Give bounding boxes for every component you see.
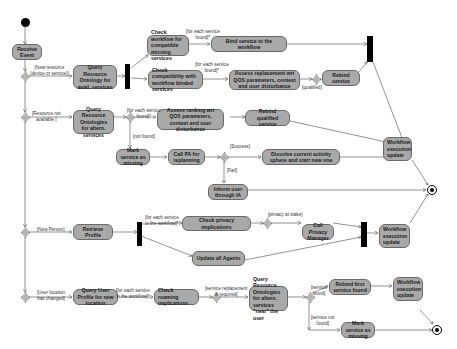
- action-assess-ranking[interactable]: Assess ranking wrt QOS parameters, conte…: [157, 109, 224, 130]
- action-dissolve-sphere[interactable]: Dissolve current activity sphere and sta…: [262, 149, 340, 165]
- guard-for-each-found-3: [for each service found]*: [127, 108, 161, 119]
- action-call-privacy-manager[interactable]: Call Privacy Manager: [302, 224, 334, 240]
- action-check-roaming[interactable]: Check roaming implications: [154, 289, 199, 305]
- guard-fail: [Fail]: [227, 168, 237, 174]
- guard-qualified: [qualified]: [302, 85, 322, 91]
- action-inform-user[interactable]: Inform user through IA: [208, 184, 248, 200]
- action-check-privacy[interactable]: Check privacy implications: [182, 216, 251, 231]
- guard-for-each-found-1: [for each service found]*: [186, 29, 220, 40]
- action-bind-service[interactable]: Bind service to the workflow: [211, 36, 287, 52]
- action-query-resource-altern[interactable]: Query Resource Ontologies for altern. se…: [73, 110, 114, 134]
- guard-for-each-workflow-2: [for each service in the workflow]*: [116, 288, 150, 299]
- guard-replacement-required: [service replacement is required]: [205, 286, 247, 297]
- action-mark-missing-2[interactable]: Mark service as missing: [341, 322, 375, 338]
- join-bar-2: [361, 222, 367, 247]
- guard-for-each-workflow-1: [for each service in the workflow]*: [145, 215, 179, 226]
- guard-new-person: [New Person]: [37, 227, 65, 233]
- guard-new-resource: [New resource (device or service)]: [30, 65, 69, 76]
- action-rebind-service[interactable]: Rebind service: [322, 70, 360, 86]
- guard-resource-not-available: [Resource not available ]: [32, 111, 61, 122]
- guard-for-each-found-2: [for each service found]*: [195, 62, 229, 73]
- action-query-user-profile[interactable]: Query User Profile for new location: [73, 289, 118, 305]
- action-rebind-qualified[interactable]: Rebind qualified service: [245, 110, 290, 126]
- action-rebind-first-found[interactable]: Rebind first service found: [329, 279, 371, 295]
- guard-not-found: [not found]: [133, 134, 155, 140]
- action-workflow-update-3[interactable]: Workflow execution update: [393, 277, 423, 301]
- guard-service-not-found: [service not found]: [311, 315, 335, 326]
- action-workflow-update-1[interactable]: Workflow execution update: [383, 137, 412, 161]
- fork-bar-2: [137, 222, 142, 246]
- guard-user-location-changed: [User location has changed]: [37, 290, 65, 301]
- fork-bar-1: [125, 64, 130, 89]
- guard-privacy-at-stake: [privacy at stake]: [268, 212, 302, 218]
- action-mark-missing-1[interactable]: Mark service as missing: [116, 149, 150, 165]
- join-bar-1: [367, 36, 373, 62]
- guard-service-found: [service found]: [311, 285, 327, 296]
- action-call-pa-replanning[interactable]: Call PA for replanning: [168, 149, 205, 165]
- action-query-resource-near[interactable]: Query Resource Ontologies for altern. se…: [249, 286, 288, 311]
- action-receive-event[interactable]: Receive Event: [12, 44, 42, 60]
- final-node-1: [427, 185, 437, 195]
- action-query-resource-avail[interactable]: Query Resource Ontology for avail. servi…: [73, 65, 117, 89]
- action-check-workflow-compatible[interactable]: Check workflow for compatible missing se…: [147, 35, 189, 56]
- action-retrieve-profile[interactable]: Retrieve Profile: [73, 224, 113, 240]
- action-assess-replacement[interactable]: Assess replacement wrt QOS parameters, c…: [229, 70, 300, 90]
- guard-success: [Success]: [230, 144, 250, 150]
- action-workflow-update-2[interactable]: Workflow execution update: [379, 224, 410, 248]
- final-node-2: [432, 325, 442, 335]
- action-update-agents[interactable]: Update all Agents: [192, 251, 245, 266]
- initial-node: [21, 18, 30, 27]
